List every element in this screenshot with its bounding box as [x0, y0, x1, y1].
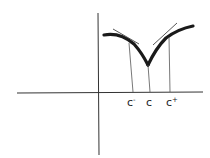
- cusp-diagram: [0, 0, 210, 158]
- y-axis: [98, 13, 99, 155]
- label-c-minus-sup: -: [133, 96, 136, 104]
- label-c-minus: c-: [127, 97, 136, 108]
- drop-line-c-plus: [169, 37, 170, 92]
- drop-line-c: [148, 65, 150, 92]
- function-curve-right: [148, 26, 193, 65]
- label-c-plus-sup: +: [172, 96, 178, 104]
- label-c-plus: c+: [166, 97, 178, 108]
- drop-line-c-minus: [129, 43, 133, 92]
- label-c: c: [146, 97, 152, 108]
- label-c-base: c: [146, 96, 152, 109]
- function-curve-left: [104, 34, 148, 65]
- x-axis: [17, 92, 203, 93]
